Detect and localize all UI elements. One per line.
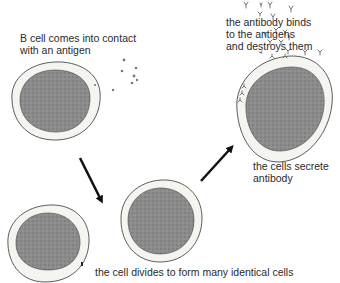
step3-label: the cells secrete antibody [253,160,329,184]
arrow-up-right-icon [201,148,231,181]
antigens [94,59,138,92]
step4-label: the antibody binds to the antigens and d… [226,16,312,52]
daughter-cell-right [121,180,202,262]
arrow-down-icon [80,158,101,200]
step2-label: the cell divides to form many identical … [95,266,293,278]
b-cell-initial [12,62,100,140]
step1-label: B cell comes into contact with an antige… [20,32,136,56]
daughter-cell-left [8,205,89,282]
plasma-cell-with-antibodies [237,56,333,162]
